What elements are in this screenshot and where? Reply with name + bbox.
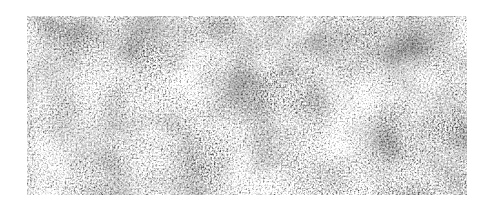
fiber-network-texture bbox=[27, 16, 467, 195]
micrograph-image: Grayscale micrograph of a dense fibrous … bbox=[27, 16, 467, 195]
